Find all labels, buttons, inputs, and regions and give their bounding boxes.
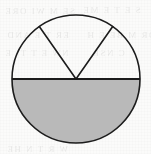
figure-container: SE M WI ORES E T E MEER T E ANDOR M BE E… [0, 0, 151, 154]
shaded-lower-semicircle [12, 79, 140, 143]
sector-radius-left-line [39, 27, 76, 79]
sector-radius-right-line [76, 27, 113, 79]
circle-sector-diagram [0, 0, 151, 154]
sector-apex-vertex [75, 78, 77, 80]
